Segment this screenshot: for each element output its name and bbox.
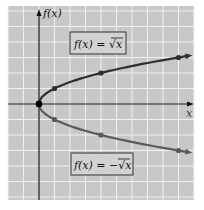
upper-function-label: f(x) = √x bbox=[73, 38, 123, 51]
lower-function-label: f(x) = −√x bbox=[73, 159, 132, 172]
data-point bbox=[176, 148, 181, 153]
data-point bbox=[52, 86, 57, 91]
y-axis-label: f(x) bbox=[42, 7, 62, 20]
x-axis-label: x bbox=[186, 107, 193, 120]
data-point bbox=[176, 55, 181, 60]
data-point bbox=[36, 101, 42, 107]
data-point bbox=[98, 70, 103, 75]
data-point bbox=[98, 132, 103, 137]
data-point bbox=[52, 117, 57, 122]
function-graph: f(x) x f(x) = √x f(x) = −√x bbox=[0, 0, 204, 210]
